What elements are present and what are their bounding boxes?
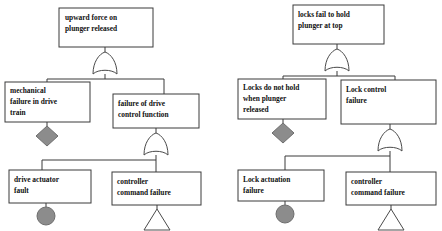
event-label-line-2: command failure (117, 188, 172, 197)
transfer-event-triangle[interactable] (378, 209, 404, 230)
event-label-line-1: drive actuator (14, 175, 60, 184)
transfer-event-triangle[interactable] (144, 209, 170, 230)
or-gate-shape[interactable] (93, 52, 117, 74)
event-label-line-1: Lock control (346, 85, 386, 94)
event-label-line-2: plunger released (65, 24, 118, 33)
event-label-line-1: upward force on (65, 13, 117, 22)
event-drive-actuator-fault[interactable]: drive actuator fault (9, 170, 91, 203)
triangle-shape[interactable] (378, 209, 404, 230)
or-gate-shape[interactable] (325, 49, 349, 71)
basic-event-circle[interactable] (276, 205, 294, 223)
diamond-shape[interactable] (36, 126, 58, 146)
event-locks-do-not-hold[interactable]: Locks do not hold when plunger released (238, 79, 326, 119)
or-gate-upward-force[interactable] (93, 52, 117, 74)
event-label-line-2: fault (14, 186, 29, 195)
circle-shape[interactable] (276, 205, 294, 223)
event-label-line-2: failure in drive (10, 97, 58, 106)
event-label-line-2: failure (243, 186, 265, 195)
triangle-shape[interactable] (144, 209, 170, 230)
event-label-line-1: Lock actuation (243, 175, 290, 184)
top-event-upward-force[interactable]: upward force on plunger released (59, 8, 153, 47)
fault-tree-svg: upward force on plunger released mechani… (0, 0, 442, 231)
undeveloped-event-diamond[interactable] (272, 123, 294, 143)
event-label-line-1: controller (117, 177, 149, 186)
basic-event-circle[interactable] (37, 207, 55, 225)
event-lock-actuation-failure[interactable]: Lock actuation failure (238, 170, 324, 201)
undeveloped-event-diamond[interactable] (36, 126, 58, 146)
diamond-shape[interactable] (272, 123, 294, 143)
fault-tree-diagram-canvas: upward force on plunger released mechani… (0, 0, 442, 231)
event-label-line-3: released (243, 105, 270, 114)
event-label-line-1: mechanical (10, 86, 46, 95)
event-controller-command-failure[interactable]: controller command failure (112, 172, 201, 205)
or-gate-locks-fail[interactable] (325, 49, 349, 71)
or-gate-shape[interactable] (378, 129, 402, 151)
event-label-line-2: plunger at top (298, 21, 343, 30)
or-gate-lock-control[interactable] (378, 129, 402, 151)
event-label-line-2: control function (118, 110, 169, 119)
event-label-line-1: Locks do not hold (243, 83, 300, 92)
left-tree: upward force on plunger released mechani… (5, 8, 201, 230)
event-label-line-2: failure (346, 96, 368, 105)
or-gate-shape[interactable] (144, 133, 168, 155)
event-label-line-1: controller (351, 177, 383, 186)
circle-shape[interactable] (37, 207, 55, 225)
event-label-line-3: train (10, 108, 26, 117)
or-gate-drive-control[interactable] (144, 133, 168, 155)
right-tree: locks fail to hold plunger at top Locks … (238, 5, 436, 230)
event-label-line-2: command failure (351, 188, 406, 197)
event-failure-drive-control-function[interactable]: failure of drive control function (113, 94, 199, 128)
event-controller-command-failure[interactable]: controller command failure (346, 172, 436, 205)
event-label-line-1: failure of drive (118, 99, 166, 108)
event-lock-control-failure[interactable]: Lock control failure (341, 80, 436, 124)
event-label-line-2: when plunger (243, 94, 287, 103)
top-event-locks-fail[interactable]: locks fail to hold plunger at top (293, 5, 384, 44)
event-label-line-1: locks fail to hold (298, 10, 351, 19)
event-mechanical-failure-drive-train[interactable]: mechanical failure in drive train (5, 82, 90, 122)
